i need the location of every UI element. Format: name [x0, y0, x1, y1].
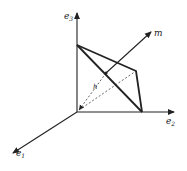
- plane-diagonal: [77, 45, 142, 112]
- diagram-canvas: e3 e2 e1 m h: [0, 0, 187, 171]
- m-label: m: [154, 28, 163, 38]
- e3-label: e3: [64, 11, 73, 22]
- e1-label: e1: [16, 148, 25, 159]
- e1-axis: [13, 112, 77, 153]
- h-distance-line: [79, 73, 106, 110]
- h-foot-point: [104, 71, 107, 74]
- h-label: h: [93, 83, 98, 91]
- e2-label: e2: [166, 116, 175, 127]
